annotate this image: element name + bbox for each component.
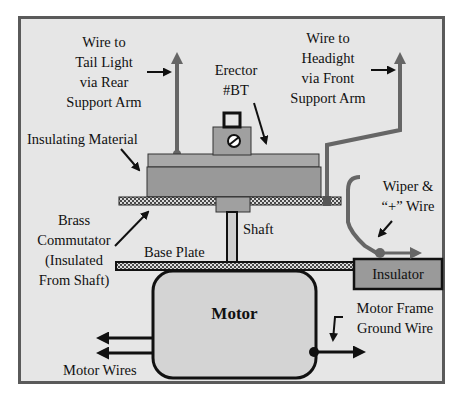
base-plate	[116, 262, 356, 270]
insulating-material-block	[147, 167, 321, 197]
label-line: Commutator	[28, 230, 120, 250]
label-line: Wire to	[58, 32, 150, 52]
label-erector: Erector #BT	[206, 60, 266, 100]
label-motor-frame-ground: Motor Frame Ground Wire	[345, 298, 445, 338]
label-line: #BT	[206, 80, 266, 100]
label-line: Brass	[28, 210, 120, 230]
label-line: Wiper &	[373, 176, 443, 196]
label-line: via Rear	[58, 72, 150, 92]
label-line: (Insulated	[28, 250, 120, 270]
insulating-top	[148, 154, 319, 167]
label-insulator: Insulator	[354, 264, 442, 284]
label-line: Ground Wire	[345, 318, 445, 338]
label-line: Support Arm	[58, 92, 150, 112]
label-line: Tail Light	[58, 52, 150, 72]
label-line: via Front	[282, 68, 374, 88]
label-line: Support Arm	[282, 88, 374, 108]
label-tail-light: Wire to Tail Light via Rear Support Arm	[58, 32, 150, 112]
hub	[216, 197, 250, 212]
label-base-plate: Base Plate	[144, 242, 205, 262]
label-line: Wire to	[282, 28, 374, 48]
label-insulating-material: Insulating Material	[27, 129, 138, 149]
label-line: Motor Frame	[345, 298, 445, 318]
label-line: From Shaft)	[28, 270, 120, 290]
label-line: Erector	[206, 60, 266, 80]
label-shaft: Shaft	[243, 219, 274, 239]
label-headlight: Wire to Headight via Front Support Arm	[282, 28, 374, 108]
erector-tab	[224, 113, 240, 127]
label-motor: Motor	[153, 304, 316, 324]
label-brass-commutator: Brass Commutator (Insulated From Shaft)	[28, 210, 120, 290]
motor-body	[153, 271, 316, 378]
label-line: “+” Wire	[373, 196, 443, 216]
label-wiper: Wiper & “+” Wire	[373, 176, 443, 216]
label-line: Headight	[282, 48, 374, 68]
label-motor-wires: Motor Wires	[63, 360, 137, 380]
shaft	[227, 212, 237, 262]
